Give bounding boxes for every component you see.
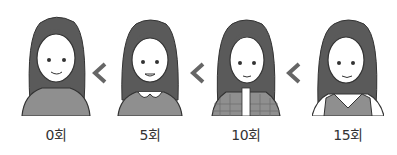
chevron-left-icon — [92, 62, 108, 84]
girl-illustration-icon — [114, 8, 186, 116]
girl-illustration-icon — [210, 8, 282, 116]
girl-illustration-icon — [312, 8, 384, 116]
figure-label-5: 5회 — [114, 124, 186, 144]
figure-0 — [20, 8, 92, 116]
figure-5 — [114, 8, 186, 116]
chevron-left-icon — [190, 62, 206, 84]
chevron-left-icon — [286, 62, 302, 84]
figure-label-10: 10회 — [210, 124, 282, 144]
girl-illustration-icon — [20, 8, 92, 116]
figure-15 — [312, 8, 384, 116]
figure-label-15: 15회 — [312, 124, 384, 144]
figure-label-0: 0회 — [20, 124, 92, 144]
figure-10 — [210, 8, 282, 116]
